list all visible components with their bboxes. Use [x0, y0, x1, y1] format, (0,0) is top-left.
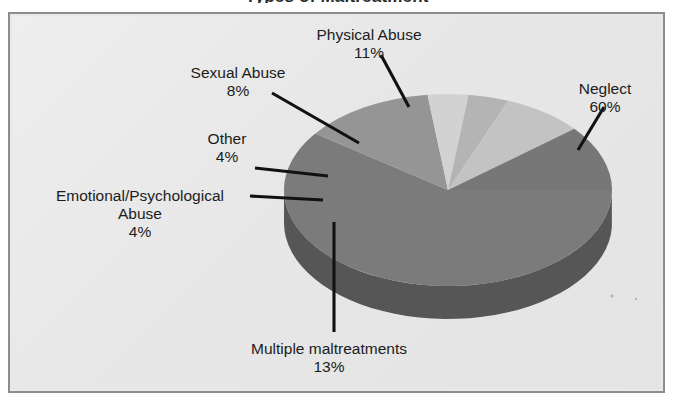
label-physical-abuse-text: Physical Abuse: [316, 26, 421, 43]
label-emotional-psychological-abuse: Emotional/Psychological Abuse 4%: [14, 187, 266, 241]
label-sexual-abuse: Sexual Abuse 8%: [160, 64, 316, 100]
label-sexual-abuse-text: Sexual Abuse: [191, 64, 286, 81]
label-multiple-percent: 13%: [198, 358, 460, 376]
label-emotional-line1: Emotional/Psychological: [56, 187, 224, 204]
label-multiple-text: Multiple maltreatments: [251, 340, 407, 357]
label-neglect-text: Neglect: [579, 80, 632, 97]
label-other: Other 4%: [178, 130, 276, 166]
label-emotional-percent: 4%: [14, 223, 266, 241]
label-sexual-abuse-percent: 8%: [160, 82, 316, 100]
label-neglect: Neglect 60%: [552, 80, 658, 116]
label-physical-abuse: Physical Abuse 11%: [281, 26, 457, 62]
label-emotional-line2: Abuse: [14, 205, 266, 223]
scan-speck: [611, 295, 614, 298]
label-physical-abuse-percent: 11%: [281, 44, 457, 62]
label-other-percent: 4%: [178, 148, 276, 166]
scan-speck: [635, 298, 637, 300]
label-multiple-maltreatments: Multiple maltreatments 13%: [198, 340, 460, 376]
label-neglect-percent: 60%: [552, 98, 658, 116]
label-other-text: Other: [208, 130, 247, 147]
